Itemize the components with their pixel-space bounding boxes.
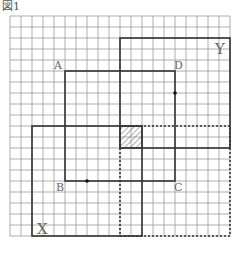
label-x: X: [37, 220, 48, 238]
label-c: C: [174, 181, 182, 194]
hatched-overlap-region: [120, 126, 142, 148]
grid-diagram: A B C D X Y: [0, 0, 236, 254]
label-y: Y: [214, 40, 226, 58]
label-a: A: [53, 59, 63, 72]
label-b: B: [56, 181, 64, 194]
label-d: D: [174, 59, 183, 72]
